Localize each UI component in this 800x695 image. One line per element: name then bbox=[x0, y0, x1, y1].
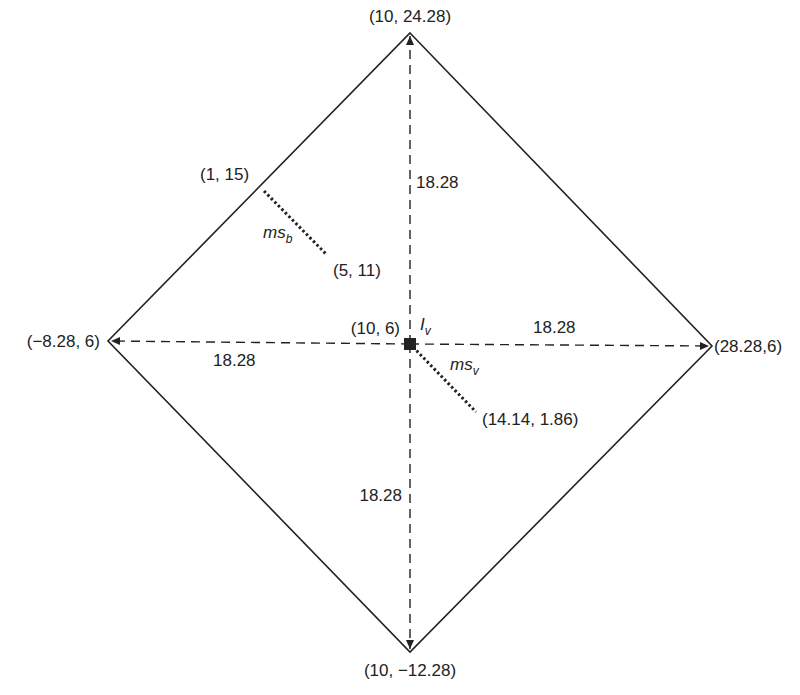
arrow-left bbox=[111, 341, 410, 344]
distance-left-label: 18.28 bbox=[213, 351, 256, 370]
bottom-vertex-label: (10, −12.28) bbox=[364, 661, 456, 680]
ms-b-name: ms bbox=[263, 223, 286, 242]
ms-v-subscript: v bbox=[473, 364, 480, 378]
ms-b-subscript: b bbox=[286, 232, 293, 246]
center-label: (10, 6) bbox=[351, 319, 400, 338]
center-point bbox=[404, 338, 416, 350]
distance-down-label: 18.28 bbox=[359, 486, 402, 505]
ms-v-end-label: (14.14, 1.86) bbox=[482, 410, 578, 429]
top-vertex-label: (10, 24.28) bbox=[369, 7, 451, 26]
right-vertex-label: (28.28,6) bbox=[714, 337, 782, 356]
diamond-diagram: (10, 24.28) (10, −12.28) (−8.28, 6) (28.… bbox=[0, 0, 800, 695]
ms-b-start-label: (1, 15) bbox=[200, 165, 249, 184]
left-vertex-label: (−8.28, 6) bbox=[27, 332, 100, 351]
distance-up-label: 18.28 bbox=[416, 173, 459, 192]
ms-b-label: msb bbox=[263, 223, 293, 246]
ms-v-name: ms bbox=[450, 355, 473, 374]
iv-subscript: v bbox=[425, 324, 432, 338]
iv-label: Iv bbox=[420, 315, 432, 338]
arrow-right bbox=[410, 344, 709, 346]
distance-right-label: 18.28 bbox=[533, 318, 576, 337]
ms-v-label: msv bbox=[450, 355, 480, 378]
ms-b-end-label: (5, 11) bbox=[333, 261, 381, 280]
